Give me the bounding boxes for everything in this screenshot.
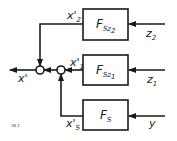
input-label-sub: 2 <box>152 34 156 42</box>
xs-label: x'S <box>66 118 80 132</box>
block-label-sub: S <box>107 116 111 124</box>
output-label: x' <box>18 73 28 84</box>
input-label-main: y <box>149 117 156 130</box>
x-label-sub: S <box>76 124 80 132</box>
x-label-main: x' <box>67 9 77 22</box>
block-fsz2-label: FSz2 <box>96 18 116 36</box>
block-label-main: F <box>96 17 103 31</box>
x2-label: x'2 <box>67 10 81 24</box>
block-label-subsub: 2 <box>111 28 115 36</box>
input-z1-label: z1 <box>147 74 157 88</box>
summing-junction-1 <box>36 66 44 74</box>
x-label-main: x' <box>66 117 76 130</box>
input-label-sub: 1 <box>153 80 157 88</box>
block-label-sub: Sz <box>103 25 111 33</box>
figure-number: 38.1 <box>11 123 20 128</box>
block-fs-label: FS <box>100 109 111 124</box>
block-label-main: F <box>100 108 107 122</box>
input-z2-label: z2 <box>146 28 156 42</box>
block-label-main: F <box>96 63 103 77</box>
input-y-label: y <box>149 118 156 129</box>
x-label-sub: 1 <box>80 63 84 71</box>
summing-junction-2 <box>57 66 65 74</box>
block-label-sub: Sz <box>103 71 111 79</box>
x-label-sub: 2 <box>77 16 81 24</box>
x-label-main: x' <box>70 56 80 69</box>
block-fsz1-label: FSz1 <box>96 64 116 82</box>
block-label-subsub: 1 <box>111 74 115 82</box>
x1-label: x'1 <box>70 57 84 71</box>
xs-path <box>61 74 83 116</box>
